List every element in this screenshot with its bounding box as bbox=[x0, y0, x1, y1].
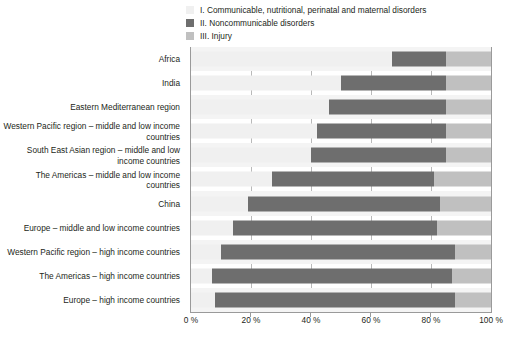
legend-item-class-ii: II. Noncommunicable disorders bbox=[186, 17, 502, 29]
bar-segment-series-1 bbox=[191, 124, 317, 139]
bar-segment-series-2 bbox=[317, 124, 446, 139]
bar-segment-series-2 bbox=[341, 76, 446, 91]
bar-row bbox=[191, 264, 491, 288]
stacked-bar bbox=[191, 172, 491, 187]
chart-legend: I. Communicable, nutritional, perinatal … bbox=[186, 4, 502, 43]
bar-segment-series-3 bbox=[446, 100, 491, 115]
legend-swatch-class-iii bbox=[186, 32, 194, 40]
stacked-bar bbox=[191, 292, 491, 307]
bar-row bbox=[191, 191, 491, 215]
bar-segment-series-3 bbox=[437, 220, 491, 235]
x-axis-tick-label: 20 % bbox=[242, 315, 261, 325]
bar-row bbox=[191, 95, 491, 119]
stacked-bar bbox=[191, 268, 491, 283]
y-axis-label: South East Asian region – middle and low… bbox=[0, 145, 184, 165]
bar-segment-series-3 bbox=[446, 76, 491, 91]
legend-item-class-iii: III. Injury bbox=[186, 30, 502, 42]
legend-swatch-class-ii bbox=[186, 19, 194, 27]
bar-segment-series-2 bbox=[221, 244, 455, 259]
bar-segment-series-3 bbox=[440, 196, 491, 211]
bar-segment-series-2 bbox=[215, 292, 455, 307]
x-axis-tickmark bbox=[310, 313, 311, 317]
bar-row bbox=[191, 167, 491, 191]
stacked-bar bbox=[191, 148, 491, 163]
bar-segment-series-3 bbox=[446, 148, 491, 163]
x-axis-tickmark bbox=[430, 313, 431, 317]
legend-swatch-class-i bbox=[186, 6, 194, 14]
bar-segment-series-1 bbox=[191, 76, 341, 91]
bar-segment-series-1 bbox=[191, 100, 329, 115]
stacked-bar bbox=[191, 76, 491, 91]
legend-label-class-ii: II. Noncommunicable disorders bbox=[200, 18, 314, 28]
bar-segment-series-1 bbox=[191, 196, 248, 211]
stacked-bar bbox=[191, 196, 491, 211]
y-axis-label: Western Pacific region – high income cou… bbox=[0, 247, 184, 257]
y-axis-label: Africa bbox=[0, 54, 184, 64]
bar-row bbox=[191, 71, 491, 95]
bar-segment-series-1 bbox=[191, 220, 233, 235]
stacked-bar bbox=[191, 100, 491, 115]
bar-segment-series-2 bbox=[272, 172, 434, 187]
bar-segment-series-2 bbox=[329, 100, 446, 115]
bar-row bbox=[191, 288, 491, 312]
y-axis-label: Europe – middle and low income countries bbox=[0, 223, 184, 233]
legend-label-class-iii: III. Injury bbox=[200, 31, 232, 41]
bar-segment-series-2 bbox=[233, 220, 437, 235]
bar-segment-series-3 bbox=[452, 268, 491, 283]
bar-row bbox=[191, 47, 491, 71]
bar-segment-series-3 bbox=[434, 172, 491, 187]
bar-segment-series-3 bbox=[446, 124, 491, 139]
bar-segment-series-3 bbox=[455, 292, 491, 307]
x-axis-tick-label: 0 % bbox=[184, 315, 198, 325]
x-axis-tick-label: 100 % bbox=[479, 315, 503, 325]
y-axis-label: India bbox=[0, 78, 184, 88]
legend-item-class-i: I. Communicable, nutritional, perinatal … bbox=[186, 4, 502, 16]
y-axis-label: Eastern Mediterranean region bbox=[0, 102, 184, 112]
bar-segment-series-2 bbox=[212, 268, 452, 283]
bar-segment-series-1 bbox=[191, 172, 272, 187]
bar-segment-series-2 bbox=[392, 52, 446, 67]
bar-row bbox=[191, 240, 491, 264]
stacked-bar bbox=[191, 220, 491, 235]
bar-segment-series-3 bbox=[455, 244, 491, 259]
bar-segment-series-1 bbox=[191, 268, 212, 283]
stacked-bar bbox=[191, 244, 491, 259]
bar-segment-series-1 bbox=[191, 52, 392, 67]
y-axis-labels: AfricaIndiaEastern Mediterranean regionW… bbox=[0, 47, 184, 312]
bar-row bbox=[191, 216, 491, 240]
bar-segment-series-2 bbox=[311, 148, 446, 163]
chart-plot-area bbox=[190, 47, 492, 313]
bar-segment-series-1 bbox=[191, 148, 311, 163]
x-axis-tickmark bbox=[250, 313, 251, 317]
bar-segment-series-1 bbox=[191, 244, 221, 259]
bar-rows bbox=[191, 47, 491, 312]
stacked-bar bbox=[191, 124, 491, 139]
bar-segment-series-3 bbox=[446, 52, 491, 67]
x-axis-tickmark bbox=[370, 313, 371, 317]
x-axis-tick-label: 40 % bbox=[302, 315, 321, 325]
stacked-bar bbox=[191, 52, 491, 67]
y-axis-label: China bbox=[0, 198, 184, 208]
y-axis-label: The Americas – high income countries bbox=[0, 271, 184, 281]
bar-segment-series-2 bbox=[248, 196, 440, 211]
y-axis-label: Western Pacific region – middle and low … bbox=[0, 121, 184, 141]
x-axis-labels: 0 %20 %40 %60 %80 %100 % bbox=[190, 315, 492, 329]
bar-segment-series-1 bbox=[191, 292, 215, 307]
y-axis-label: The Americas – middle and low income cou… bbox=[0, 169, 184, 189]
bar-row bbox=[191, 143, 491, 167]
bar-row bbox=[191, 119, 491, 143]
x-axis-tick-label: 60 % bbox=[362, 315, 381, 325]
y-axis-label: Europe – high income countries bbox=[0, 295, 184, 305]
x-axis-tick-label: 80 % bbox=[422, 315, 441, 325]
legend-label-class-i: I. Communicable, nutritional, perinatal … bbox=[200, 5, 426, 15]
